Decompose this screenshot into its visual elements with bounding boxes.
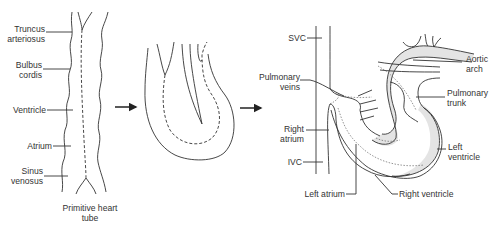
label-left-ventricle: Left ventricle (448, 142, 490, 162)
label-bulbus-cordis: Bulbus cordis (6, 60, 42, 80)
label-svc: SVC (280, 33, 306, 43)
label-right-ventricle: Right ventricle (399, 189, 463, 199)
label-atrium: Atrium (10, 141, 52, 151)
heart-development-diagram: Truncus arteriosus Bulbus cordis Ventric… (0, 0, 496, 227)
looping-heart-tube (145, 42, 234, 160)
label-right-atrium: Right atrium (270, 124, 304, 144)
label-pulmonary-veins: Pulmonary veins (256, 72, 300, 92)
caption-primitive-heart-tube: Primitive heart tube (58, 203, 122, 223)
formed-heart (300, 26, 474, 194)
label-aortic-arch: Aortic arch (466, 54, 496, 74)
label-pulmonary-trunk: Pulmonary trunk (447, 88, 495, 108)
label-truncus-arteriosus: Truncus arteriosus (6, 24, 45, 44)
label-ivc: IVC (282, 157, 302, 167)
label-ventricle: Ventricle (2, 105, 46, 115)
primitive-heart-tube (43, 12, 108, 194)
label-left-atrium: Left atrium (296, 189, 345, 199)
label-sinus-venosus: Sinus venosus (6, 166, 43, 186)
